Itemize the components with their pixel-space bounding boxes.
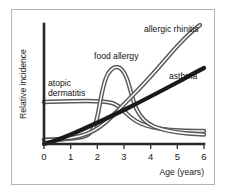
- label-food-allergy: food allergy: [94, 51, 139, 61]
- x-tick-label-4: 4: [148, 151, 153, 162]
- x-tick-label-1: 1: [68, 151, 73, 162]
- x-tick-label-6: 6: [201, 151, 206, 162]
- allergic-march-chart: 0 1 2 3 4 5 6 Age (years) Relative incid…: [12, 10, 214, 184]
- x-tick-label-5: 5: [175, 151, 180, 162]
- label-asthma: asthma: [169, 71, 197, 81]
- y-axis-title: Relative incidence: [18, 49, 28, 119]
- x-tick-label-3: 3: [121, 151, 126, 162]
- x-tick-label-0: 0: [41, 151, 46, 162]
- x-tick-label-2: 2: [95, 151, 100, 162]
- figure-frame: 0 1 2 3 4 5 6 Age (years) Relative incid…: [11, 9, 215, 185]
- label-atopic-dermatitis-line2: dermatitis: [48, 88, 85, 98]
- label-atopic-dermatitis-line1: atopic: [48, 78, 72, 88]
- label-allergic-rhinitis: allergic rhinitis: [144, 24, 198, 34]
- x-axis-title: Age (years): [160, 167, 205, 177]
